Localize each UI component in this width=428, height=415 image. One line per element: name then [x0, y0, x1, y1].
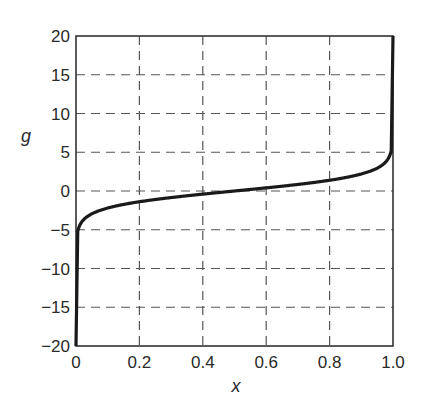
y-tick-label: 10: [51, 105, 70, 124]
x-tick-label: 1.0: [381, 353, 405, 372]
y-tick-label: −20: [41, 337, 70, 356]
y-tick-label: −5: [51, 221, 70, 240]
x-axis-ticks: 00.20.40.60.81.0: [71, 353, 405, 372]
logit-chart: 20151050−5−10−15−20 00.20.40.60.81.0 g x: [0, 0, 428, 415]
y-tick-label: 0: [61, 182, 70, 201]
y-tick-label: −15: [41, 298, 70, 317]
y-tick-label: 15: [51, 66, 70, 85]
x-tick-label: 0.4: [191, 353, 215, 372]
x-tick-label: 0.8: [318, 353, 342, 372]
x-tick-label: 0.2: [128, 353, 152, 372]
y-axis-ticks: 20151050−5−10−15−20: [41, 27, 70, 356]
x-tick-label: 0.6: [254, 353, 278, 372]
y-tick-label: 20: [51, 27, 70, 46]
y-tick-label: 5: [61, 143, 70, 162]
x-tick-label: 0: [71, 353, 80, 372]
x-axis-label: x: [231, 376, 242, 396]
y-axis-label: g: [21, 126, 31, 146]
y-tick-label: −10: [41, 260, 70, 279]
